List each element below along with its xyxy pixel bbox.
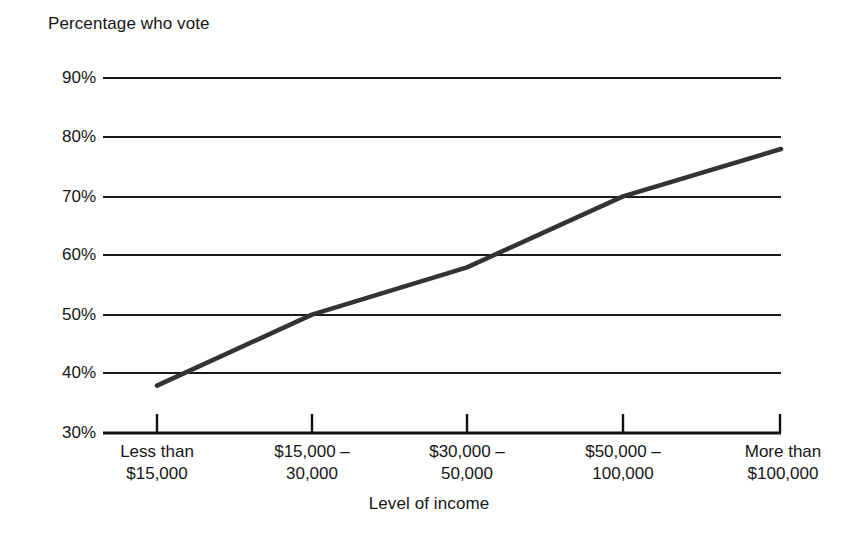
x-tick-label-4-line1: $50,000 – (585, 441, 661, 463)
vote-by-income-line-chart: Percentage who vote 90% 80% 70% 60% 50% … (0, 0, 866, 538)
x-tick-label-4-line2: 100,000 (585, 463, 661, 485)
x-tick-label-2-line2: 30,000 (274, 463, 350, 485)
x-tick-label-3: $30,000 – 50,000 (429, 441, 505, 486)
x-tick-label-5-line1: More than (745, 441, 822, 463)
gridlines (103, 78, 781, 373)
x-tick-label-1-line2: $15,000 (120, 463, 194, 485)
series-polyline (157, 149, 781, 386)
x-axis-title: Level of income (0, 494, 866, 514)
x-axis (103, 414, 781, 433)
x-tick-label-3-line2: 50,000 (429, 463, 505, 485)
x-tick-label-1-line1: Less than (120, 441, 194, 463)
x-tick-label-3-line1: $30,000 – (429, 441, 505, 463)
x-tick-label-2-line1: $15,000 – (274, 441, 350, 463)
x-tick-label-1: Less than $15,000 (120, 441, 194, 486)
x-tick-label-5-line2: $100,000 (745, 463, 822, 485)
data-series-line (157, 149, 781, 386)
x-tick-label-5: More than $100,000 (745, 441, 822, 486)
x-tick-label-4: $50,000 – 100,000 (585, 441, 661, 486)
x-tick-label-2: $15,000 – 30,000 (274, 441, 350, 486)
